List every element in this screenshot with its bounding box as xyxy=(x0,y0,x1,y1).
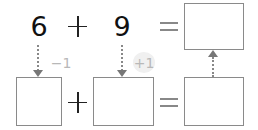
plus-one-badge: +1 xyxy=(133,56,155,70)
bottom-box-2[interactable] xyxy=(93,77,154,126)
bottom-equals-sign xyxy=(160,98,178,108)
bottom-result-box[interactable] xyxy=(184,77,244,126)
arrow-down-icon xyxy=(117,70,127,77)
top-operand-2: 9 xyxy=(110,13,134,40)
minus-one-badge: −1 xyxy=(50,56,72,70)
top-result-box[interactable] xyxy=(184,3,244,50)
bottom-box-1[interactable] xyxy=(16,77,62,126)
top-operand-1: 6 xyxy=(27,13,51,40)
top-equals-sign xyxy=(160,22,178,32)
arrow-up-icon xyxy=(208,50,218,57)
top-plus-sign xyxy=(68,16,87,37)
arrow-down-icon xyxy=(33,70,43,77)
bottom-plus-sign xyxy=(68,92,87,113)
